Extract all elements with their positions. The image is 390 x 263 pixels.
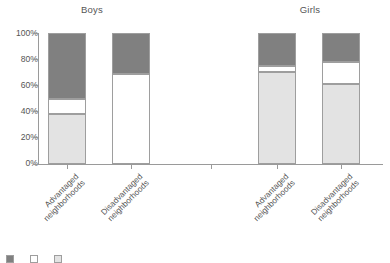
category-label-line2: neighborhoods [87,179,152,244]
bar-boys-disadvantaged [112,33,150,164]
legend-swatch-medium-icon [30,255,38,263]
y-tick-mark-40 [33,111,38,112]
category-label-line1: Disadvantaged [80,172,145,237]
bar-segment-low [48,114,86,164]
x-tick-mark-4 [277,165,278,169]
bar-segment-medium [112,74,150,164]
x-tick-mark-3 [211,165,212,169]
x-tick-mark-5 [341,165,342,169]
y-tick-mark-100 [33,33,38,34]
bar-boys-advantaged [48,33,86,164]
bar-girls-advantaged [258,33,296,164]
bar-girls-disadvantaged [322,33,360,164]
bar-segment-low [322,84,360,164]
bar-segment-high [322,33,360,62]
category-label-line2: neighborhoods [297,179,362,244]
legend-swatch-high-icon [6,255,14,263]
y-tick-mark-80 [33,59,38,60]
category-label-boys-advantaged: Advantaged neighborhoods [22,172,88,238]
category-label-line1: Advantaged [22,172,81,231]
bar-segment-medium [48,99,86,115]
bar-segment-medium [322,62,360,84]
y-axis-line [38,33,39,164]
bar-segment-high [48,33,86,99]
category-label-boys-disadvantaged: Disadvantaged neighborhoods [80,172,151,243]
chart-legend [6,255,65,263]
x-tick-mark-2 [131,165,132,169]
bar-segment-high [112,33,150,74]
category-label-girls-advantaged: Advantaged neighborhoods [232,172,298,238]
y-tick-label-0: 0% [7,159,38,167]
y-tick-mark-60 [33,85,38,86]
category-label-girls-disadvantaged: Disadvantaged neighborhoods [290,172,361,243]
legend-item-medium [30,255,41,263]
bar-segment-medium [258,66,296,73]
category-label-line1: Advantaged [232,172,291,231]
category-label-line1: Disadvantaged [290,172,355,237]
legend-item-low [54,255,65,263]
x-tick-mark-1 [67,165,68,169]
bar-segment-high [258,33,296,66]
panel-title-girls: Girls [285,4,335,15]
stacked-bar-chart: Boys Girls 100% 80% 60% 40% 20% 0% [0,0,390,263]
y-tick-mark-20 [33,137,38,138]
bar-segment-low [258,72,296,164]
legend-item-high [6,255,17,263]
panel-title-boys: Boys [67,4,117,15]
legend-swatch-low-icon [54,255,62,263]
y-tick-0: 0% [0,159,38,167]
